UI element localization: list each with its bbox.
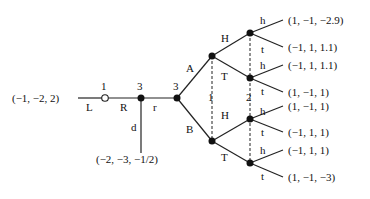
action-h2: h <box>260 59 266 71</box>
node-A <box>209 53 216 60</box>
edge-B <box>177 98 212 141</box>
action-H-upper: H <box>221 32 229 44</box>
node-B <box>209 138 216 145</box>
edge-BH-t <box>250 119 283 132</box>
game-tree: 1 3 3 L R r d A B H T H T h t h t h t h … <box>0 0 370 199</box>
action-T-lower: T <box>221 151 228 163</box>
action-L: L <box>86 101 93 113</box>
payoff-AHh: (1, −1, −2.9) <box>288 14 344 27</box>
edge-AH-t <box>250 33 283 47</box>
node-AT <box>247 75 254 82</box>
action-T-upper: T <box>221 70 228 82</box>
node-player3-first <box>138 95 145 102</box>
payoff-L: (−1, −2, 2) <box>12 92 60 105</box>
payoff-d: (−2, −3, −1/2) <box>96 153 158 166</box>
action-R: R <box>120 101 128 113</box>
node-player3-second <box>174 95 181 102</box>
payoff-BTt: (1, −1, −3) <box>288 171 336 184</box>
action-B: B <box>186 123 193 135</box>
action-H-lower: H <box>221 109 229 121</box>
player-label-root: 1 <box>101 80 107 92</box>
action-h1: h <box>260 14 266 26</box>
edge-BT-t <box>250 163 283 177</box>
edge-A <box>177 56 212 98</box>
root-node-open <box>102 95 109 102</box>
payoff-AHt: (−1, 1, 1.1) <box>288 41 338 54</box>
payoff-ATt: (1, −1, 1) <box>288 86 329 99</box>
action-t2: t <box>261 85 264 97</box>
payoff-ATh: (−1, 1, 1.1) <box>288 59 338 72</box>
node-BT <box>247 160 254 167</box>
edge-AT-t <box>250 78 283 92</box>
info-set-label-1: 1 <box>208 91 214 103</box>
action-h3: h <box>260 105 266 117</box>
edge-BH-h <box>250 106 283 119</box>
edge-B-H <box>212 119 250 141</box>
edge-BT-h <box>250 150 283 163</box>
edge-A-T <box>212 56 250 78</box>
payoff-BTh: (−1, 1, 1) <box>288 144 329 157</box>
info-set-label-2: 2 <box>246 91 252 103</box>
action-r: r <box>153 101 157 113</box>
node-BH <box>247 116 254 123</box>
action-t1: t <box>261 43 264 55</box>
action-A: A <box>186 62 194 74</box>
edge-AT-h <box>250 65 283 78</box>
payoff-BHt: (−1, 1, 1) <box>288 126 329 139</box>
action-t3: t <box>261 126 264 138</box>
action-d: d <box>131 121 137 133</box>
node-AH <box>247 30 254 37</box>
edge-A-H <box>212 33 250 56</box>
action-t4: t <box>261 170 264 182</box>
edge-B-T <box>212 141 250 163</box>
action-h4: h <box>260 144 266 156</box>
edge-AH-h <box>250 20 283 33</box>
payoff-BHh: (1, −1, 1) <box>288 100 329 113</box>
player-label-n2: 3 <box>137 80 143 92</box>
player-label-n3: 3 <box>173 80 179 92</box>
